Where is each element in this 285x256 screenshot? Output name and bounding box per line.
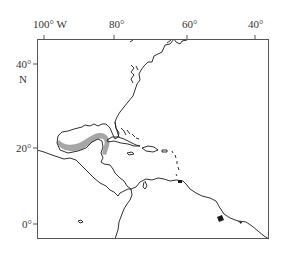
cuba xyxy=(107,137,140,146)
lake-maracaibo xyxy=(143,181,147,189)
south-america-pacific-coast xyxy=(115,189,132,239)
hispaniola xyxy=(142,146,158,152)
bahamas xyxy=(121,128,139,139)
chesapeake-detail xyxy=(131,65,138,83)
amazon-delta xyxy=(217,215,224,222)
puerto-rico xyxy=(162,150,167,152)
trinidad xyxy=(178,180,182,183)
galapagos xyxy=(78,220,83,223)
south-america-coastline xyxy=(120,178,269,239)
map-frame xyxy=(38,40,269,239)
lesser-antilles xyxy=(172,151,179,176)
mexico-pacific-coastline xyxy=(37,150,120,196)
jamaica xyxy=(127,152,134,155)
map-canvas xyxy=(0,0,285,256)
